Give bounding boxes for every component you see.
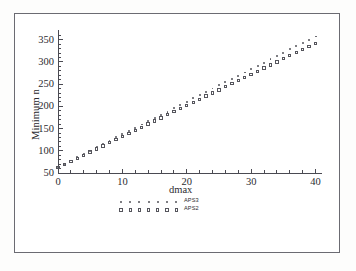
legend-entry: APS2 — [118, 207, 238, 215]
data-point-aps3 — [302, 42, 304, 44]
legend-marker-aps2 — [129, 208, 132, 211]
data-point-aps2 — [95, 147, 98, 150]
y-minor-tick — [58, 133, 61, 134]
y-minor-tick — [58, 124, 61, 125]
x-minor-tick — [96, 170, 97, 173]
data-point-aps2 — [69, 160, 72, 163]
legend-marker-aps3 — [166, 201, 168, 203]
x-minor-tick — [173, 170, 174, 173]
data-point-aps3 — [173, 107, 175, 109]
data-point-aps2 — [140, 126, 143, 129]
data-point-aps2 — [185, 104, 188, 107]
legend-marker-aps3 — [129, 201, 131, 203]
y-major-tick — [58, 61, 63, 62]
y-major-tick — [58, 128, 63, 129]
chart-figure: Minimum n dmax 50100150200250300350 0102… — [0, 0, 356, 271]
data-point-aps3 — [218, 84, 220, 86]
data-point-aps2 — [159, 116, 162, 119]
data-point-aps3 — [237, 75, 239, 77]
x-minor-tick — [148, 170, 149, 173]
x-tick-label: 0 — [46, 176, 70, 187]
y-minor-tick — [58, 88, 61, 89]
data-point-aps3 — [257, 65, 259, 67]
data-point-aps3 — [308, 39, 310, 41]
data-point-aps2 — [230, 82, 233, 85]
data-point-aps3 — [179, 104, 181, 106]
data-point-aps2 — [134, 129, 137, 132]
y-minor-tick — [58, 79, 61, 80]
data-point-aps3 — [250, 68, 252, 70]
data-point-aps2 — [211, 91, 214, 94]
y-minor-tick — [58, 93, 61, 94]
data-point-aps2 — [288, 54, 291, 57]
x-axis-line — [58, 173, 322, 174]
data-point-aps3 — [205, 91, 207, 93]
data-point-aps2 — [217, 88, 220, 91]
data-point-aps3 — [315, 36, 317, 38]
data-point-aps3 — [295, 45, 297, 47]
y-minor-tick — [58, 66, 61, 67]
data-point-aps2 — [256, 70, 259, 73]
legend-label-aps2: APS2 — [184, 205, 199, 211]
data-point-aps2 — [282, 57, 285, 60]
legend-marker-aps2 — [147, 208, 150, 211]
x-minor-tick — [276, 170, 277, 173]
y-major-tick — [58, 39, 63, 40]
data-point-aps2 — [121, 135, 124, 138]
data-point-aps3 — [263, 62, 265, 64]
data-point-aps2 — [237, 79, 240, 82]
y-tick-label: 250 — [31, 78, 54, 89]
x-minor-tick — [70, 170, 71, 173]
plot-area — [58, 33, 322, 173]
x-major-tick — [122, 169, 123, 174]
x-minor-tick — [135, 170, 136, 173]
data-point-aps2 — [314, 42, 317, 45]
y-tick-label: 100 — [31, 145, 54, 156]
legend-marker-aps3 — [175, 201, 177, 203]
data-point-aps3 — [186, 101, 188, 103]
data-point-aps3 — [270, 58, 272, 60]
data-point-aps3 — [192, 97, 194, 99]
data-point-aps2 — [166, 113, 169, 116]
data-point-aps2 — [114, 138, 117, 141]
x-major-tick — [251, 169, 252, 174]
y-minor-tick — [58, 44, 61, 45]
data-point-aps3 — [276, 55, 278, 57]
data-point-aps3 — [244, 72, 246, 74]
x-tick-label: 40 — [304, 176, 328, 187]
data-point-aps2 — [127, 132, 130, 135]
data-point-aps2 — [307, 45, 310, 48]
legend-marker-aps3 — [138, 201, 140, 203]
legend-marker-aps2 — [119, 208, 122, 211]
data-point-aps2 — [262, 66, 265, 69]
legend-marker-aps2 — [175, 208, 178, 211]
legend-marker-aps3 — [157, 201, 159, 203]
data-point-aps3 — [289, 48, 291, 50]
y-minor-tick — [58, 70, 61, 71]
y-tick-label: 350 — [31, 34, 54, 45]
data-point-aps2 — [275, 60, 278, 63]
x-major-tick — [186, 169, 187, 174]
legend-entry: APS3 — [118, 199, 238, 207]
chart-legend: APS3APS2 — [118, 199, 238, 217]
y-minor-tick — [58, 146, 61, 147]
y-minor-tick — [58, 164, 61, 165]
data-point-aps2 — [301, 48, 304, 51]
x-major-tick — [315, 169, 316, 174]
x-tick-label: 10 — [110, 176, 134, 187]
y-minor-tick — [58, 57, 61, 58]
y-major-tick — [58, 106, 63, 107]
y-tick-label: 300 — [31, 56, 54, 67]
data-point-aps2 — [76, 157, 79, 160]
data-point-aps2 — [192, 101, 195, 104]
y-minor-tick — [58, 110, 61, 111]
data-point-aps3 — [224, 81, 226, 83]
y-minor-tick — [58, 141, 61, 142]
data-point-aps3 — [199, 94, 201, 96]
x-minor-tick — [289, 170, 290, 173]
data-point-aps3 — [212, 88, 214, 90]
data-point-aps2 — [82, 154, 85, 157]
x-minor-tick — [199, 170, 200, 173]
data-point-aps2 — [108, 141, 111, 144]
data-point-aps2 — [88, 150, 91, 153]
